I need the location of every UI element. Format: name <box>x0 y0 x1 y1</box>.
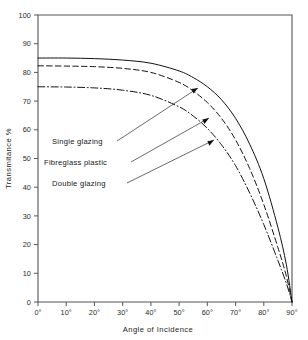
annotation-label-double-glazing: Double glazing <box>52 179 106 188</box>
y-tick-label: 30 <box>23 212 31 221</box>
arrowhead-icon <box>191 88 198 94</box>
x-tick-label: 80° <box>258 308 269 317</box>
x-tick-label: 60° <box>202 308 213 317</box>
y-axis-title: Transmitance % <box>4 128 13 189</box>
x-tick-label: 70° <box>230 308 241 317</box>
x-tick-label: 0° <box>34 308 41 317</box>
transmittance-vs-angle-chart: 0 10 20 30 40 50 60 70 80 90 100 0° <box>0 0 308 340</box>
series-line-fibreglass-plastic <box>38 87 292 302</box>
x-tick-label: 90° <box>286 308 297 317</box>
y-tick-label: 100 <box>19 11 31 20</box>
y-tick-label: 40 <box>23 183 31 192</box>
annotation-label-fibreglass-plastic: Fibreglass plastic <box>44 158 107 167</box>
y-tick-label: 90 <box>23 39 31 48</box>
x-tick-label: 20° <box>89 308 100 317</box>
arrowhead-icon <box>207 140 214 146</box>
y-tick-label: 50 <box>23 154 31 163</box>
y-tick-label: 70 <box>23 97 31 106</box>
y-tick-label: 80 <box>23 68 31 77</box>
x-axis-title: Angle of Incidence <box>123 325 194 334</box>
x-tick-label: 50° <box>173 308 184 317</box>
chart-canvas: 0 10 20 30 40 50 60 70 80 90 100 0° <box>0 0 308 340</box>
x-axis-ticks: 0° 10° 20° 30° 40° 50° 60° 70° 80° 90° <box>34 302 297 317</box>
x-tick-label: 30° <box>117 308 128 317</box>
x-tick-label: 40° <box>145 308 156 317</box>
arrowhead-icon <box>202 118 209 124</box>
annotation-label-single-glazing: Single glazing <box>52 137 103 146</box>
annotation-leaders <box>117 88 214 183</box>
y-tick-label: 10 <box>23 269 31 278</box>
y-axis-ticks: 0 10 20 30 40 50 60 70 80 90 100 <box>19 11 38 307</box>
y-tick-label: 60 <box>23 125 31 134</box>
x-tick-label: 10° <box>61 308 72 317</box>
y-tick-label: 0 <box>27 298 31 307</box>
y-tick-label: 20 <box>23 240 31 249</box>
